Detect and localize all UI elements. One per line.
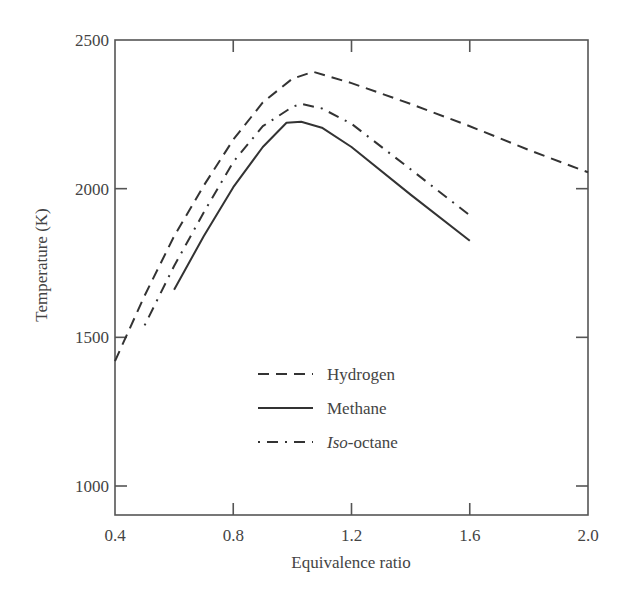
x-tick-label: 0.4 [104, 526, 126, 545]
x-axis-ticks: 0.40.81.21.62.0 [104, 40, 598, 545]
legend: Hydrogen Methane Iso-octane [258, 365, 398, 452]
y-axis-label: Temperature (K) [32, 208, 51, 322]
x-tick-label: 1.6 [459, 526, 480, 545]
legend-label-iso-octane: Iso-octane [326, 433, 398, 452]
series-lines [115, 72, 588, 361]
x-axis-label: Equivalence ratio [291, 553, 410, 572]
y-tick-label: 2000 [75, 180, 109, 199]
series-line-iso-octane [145, 104, 470, 326]
x-tick-label: 0.8 [223, 526, 244, 545]
x-tick-label: 1.2 [341, 526, 362, 545]
legend-item-methane: Methane [258, 399, 386, 418]
series-line-methane [174, 122, 470, 290]
x-tick-label: 2.0 [577, 526, 598, 545]
y-axis-ticks: 1000150020002500 [75, 31, 588, 496]
series-line-hydrogen [115, 72, 588, 361]
legend-label-hydrogen: Hydrogen [327, 365, 395, 384]
y-tick-label: 1500 [75, 328, 109, 347]
temperature-vs-equivalence-ratio-chart: 0.40.81.21.62.0 1000150020002500 Equival… [0, 0, 631, 601]
legend-label-methane: Methane [327, 399, 386, 418]
y-tick-label: 2500 [75, 31, 109, 50]
legend-item-hydrogen: Hydrogen [258, 365, 395, 384]
y-tick-label: 1000 [75, 477, 109, 496]
legend-item-iso-octane: Iso-octane [258, 433, 398, 452]
